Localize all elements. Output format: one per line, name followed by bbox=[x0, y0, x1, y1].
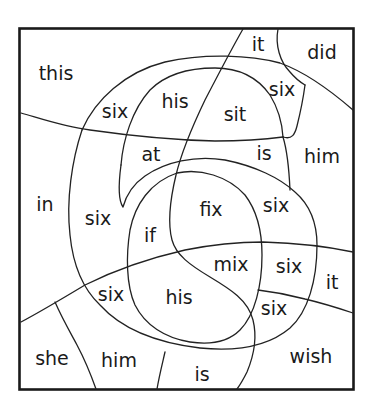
word-label[interactable]: is bbox=[256, 142, 271, 164]
word-label[interactable]: did bbox=[307, 41, 336, 63]
word-label[interactable]: him bbox=[101, 349, 137, 371]
word-label[interactable]: at bbox=[141, 143, 160, 165]
word-label[interactable]: six bbox=[98, 283, 124, 305]
word-label[interactable]: six bbox=[85, 207, 111, 229]
word-label[interactable]: it bbox=[326, 271, 339, 293]
word-label[interactable]: six bbox=[261, 297, 287, 319]
divider-she-him bbox=[55, 302, 96, 389]
word-label[interactable]: six bbox=[269, 78, 295, 100]
divider-is-him bbox=[283, 137, 290, 190]
word-label[interactable]: this bbox=[39, 62, 74, 84]
word-labels: this it did six his sit six at is him in… bbox=[35, 33, 340, 385]
word-label[interactable]: wish bbox=[290, 345, 333, 367]
divider-it-did bbox=[277, 29, 305, 85]
divider-him-is bbox=[157, 352, 165, 389]
word-label[interactable]: six bbox=[102, 100, 128, 122]
word-label[interactable]: fix bbox=[199, 198, 222, 220]
word-label[interactable]: sit bbox=[224, 103, 247, 125]
word-label[interactable]: his bbox=[161, 90, 188, 112]
word-label[interactable]: is bbox=[194, 363, 209, 385]
word-label[interactable]: six bbox=[263, 194, 289, 216]
word-label[interactable]: six bbox=[276, 255, 302, 277]
color-by-word-puzzle: this it did six his sit six at is him in… bbox=[0, 0, 368, 413]
word-label[interactable]: in bbox=[36, 193, 53, 215]
word-label[interactable]: his bbox=[165, 286, 192, 308]
word-label[interactable]: if bbox=[144, 224, 157, 246]
word-label[interactable]: it bbox=[252, 33, 265, 55]
word-label[interactable]: she bbox=[35, 347, 69, 369]
word-label[interactable]: him bbox=[304, 145, 340, 167]
word-label[interactable]: mix bbox=[213, 253, 248, 275]
